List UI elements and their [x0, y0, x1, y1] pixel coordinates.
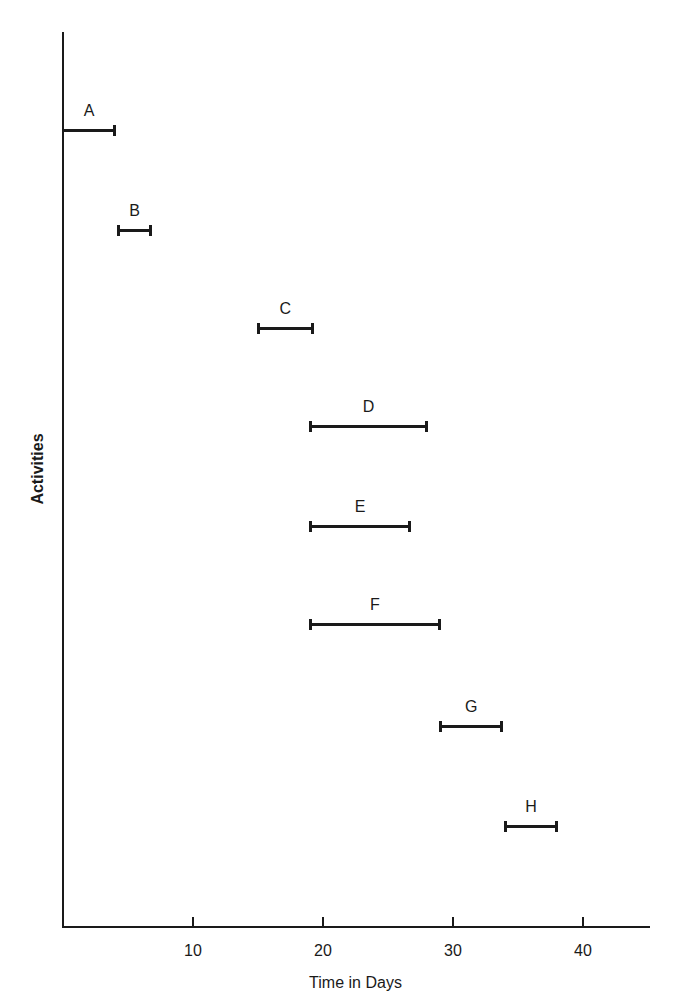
- bar-end-cap: [149, 225, 152, 236]
- activity-label: E: [355, 498, 366, 516]
- y-axis: [62, 32, 64, 927]
- activity-label: F: [370, 596, 380, 614]
- activity-bar-d: [310, 425, 427, 428]
- activity-label: A: [84, 102, 95, 120]
- x-tick: [452, 917, 454, 927]
- x-tick-label: 20: [314, 942, 332, 960]
- x-tick-label: 40: [574, 942, 592, 960]
- bar-start-cap: [309, 421, 312, 432]
- activity-label: C: [280, 300, 292, 318]
- x-axis: [62, 926, 650, 928]
- bar-end-cap: [425, 421, 428, 432]
- activity-bar-g: [440, 725, 502, 728]
- activity-bar-h: [505, 825, 557, 828]
- y-axis-label: Activities: [29, 429, 47, 509]
- bar-start-cap: [309, 521, 312, 532]
- activity-bar-b: [118, 229, 152, 232]
- bar-end-cap: [555, 821, 558, 832]
- activity-label: D: [363, 398, 375, 416]
- bar-end-cap: [438, 619, 441, 630]
- x-tick-label: 30: [444, 942, 462, 960]
- x-axis-label: Time in Days: [309, 974, 402, 992]
- x-tick-label: 10: [184, 942, 202, 960]
- bar-start-cap: [504, 821, 507, 832]
- activity-bar-c: [258, 327, 313, 330]
- activity-bar-a: [63, 129, 115, 132]
- activity-label: B: [129, 202, 140, 220]
- bar-end-cap: [311, 323, 314, 334]
- bar-start-cap: [117, 225, 120, 236]
- x-tick: [192, 917, 194, 927]
- bar-start-cap: [439, 721, 442, 732]
- activity-bar-e: [310, 525, 410, 528]
- x-tick: [322, 917, 324, 927]
- bar-end-cap: [113, 125, 116, 136]
- bar-start-cap: [309, 619, 312, 630]
- activity-label: H: [525, 798, 537, 816]
- bar-start-cap: [257, 323, 260, 334]
- activity-label: G: [465, 698, 477, 716]
- x-tick: [582, 917, 584, 927]
- bar-end-cap: [500, 721, 503, 732]
- gantt-chart: 10203040 ABCDEFGH Time in Days Activitie…: [0, 0, 681, 1004]
- activity-bar-f: [310, 623, 440, 626]
- bar-end-cap: [408, 521, 411, 532]
